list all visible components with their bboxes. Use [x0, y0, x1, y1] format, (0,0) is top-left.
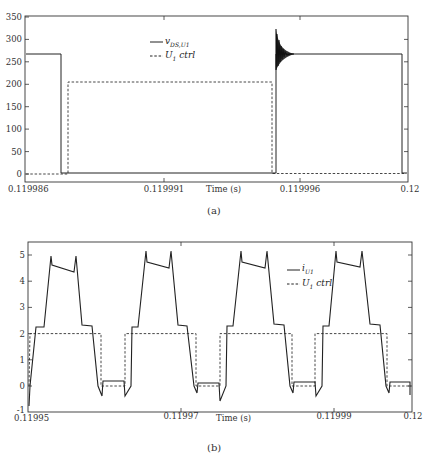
xtick-label: 0.119996 — [280, 184, 321, 194]
xtick-label: 0.11997 — [163, 411, 198, 421]
ytick-label: 50 — [11, 147, 22, 157]
plot-a-xtick-labels: 0.119986 0.119991 Time (s) 0.119996 0.12 — [8, 184, 419, 194]
ytick-label: 100 — [6, 124, 22, 134]
xtick-label: 0.11999 — [316, 411, 351, 421]
ytick-label: 4 — [20, 276, 25, 286]
plot-a-frame — [25, 16, 408, 182]
legend-label-iu1: iU1 — [302, 263, 314, 275]
ytick-label: 350 — [6, 12, 22, 22]
plot-b: 5 4 3 2 1 0 -1 0.11995 0.11997 Time (s) … — [14, 242, 422, 423]
plot-b-xtick-labels: 0.11995 0.11997 Time (s) 0.11999 0.12 — [14, 411, 422, 423]
caption-b: (b) — [207, 442, 221, 453]
series-vds-u1 — [26, 54, 407, 173]
ytick-label: 250 — [6, 57, 22, 67]
ytick-label: 2 — [20, 329, 25, 339]
series-i-u1 — [29, 251, 410, 406]
ytick-label: 200 — [6, 79, 22, 89]
xtick-label: 0.11995 — [14, 413, 49, 423]
series-u1-ctrl-b — [29, 334, 411, 386]
legend-b: iU1 U1 ctrl — [287, 263, 332, 290]
x-axis-label: Time (s) — [216, 413, 251, 423]
xtick-label: 0.119991 — [144, 184, 185, 194]
plot-a-yticks — [25, 16, 408, 182]
xtick-label: 0.119986 — [8, 184, 49, 194]
legend-label-u1ctrl: U1 ctrl — [165, 50, 195, 62]
ytick-label: 150 — [6, 102, 22, 112]
figure: 350 300 250 200 150 100 50 0 0.119986 0.… — [0, 0, 433, 469]
ytick-label: 0 — [17, 169, 22, 179]
legend-label-vds: vDS,U1 — [165, 36, 190, 48]
ytick-label: 3 — [20, 302, 25, 312]
legend-a: vDS,U1 U1 ctrl — [150, 36, 195, 62]
plot-b-ytick-labels: 5 4 3 2 1 0 -1 — [17, 250, 25, 415]
xtick-label: 0.12 — [404, 411, 423, 421]
ytick-label: 5 — [20, 250, 25, 260]
ytick-label: 300 — [6, 34, 22, 44]
ytick-label: 0 — [20, 381, 25, 391]
plot-a-ytick-labels: 350 300 250 200 150 100 50 0 — [6, 12, 22, 179]
plot-b-frame — [28, 242, 412, 412]
legend-label-u1ctrl: U1 ctrl — [302, 278, 332, 290]
xtick-label: 0.12 — [401, 184, 420, 194]
ytick-label: 1 — [20, 355, 25, 365]
plot-a: 350 300 250 200 150 100 50 0 0.119986 0.… — [6, 12, 420, 194]
caption-a: (a) — [207, 205, 221, 216]
x-axis-label: Time (s) — [206, 184, 241, 194]
plot-b-yticks — [28, 242, 412, 412]
series-u1-ctrl-a — [26, 82, 406, 174]
